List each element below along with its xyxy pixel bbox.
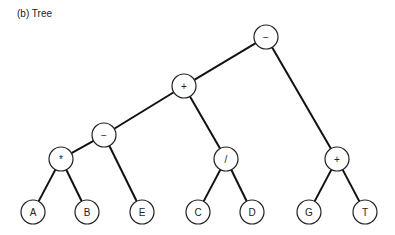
tree-node-B: B <box>75 200 99 224</box>
node-label: + <box>334 154 340 165</box>
node-label: − <box>263 32 269 43</box>
tree-node-E: E <box>130 200 154 224</box>
tree-edge <box>231 170 246 201</box>
tree-node-D: D <box>240 200 264 224</box>
node-label: D <box>248 207 255 218</box>
tree-edge <box>66 170 81 201</box>
tree-edge <box>315 170 332 202</box>
tree-node-div: / <box>214 147 238 171</box>
tree-edge <box>194 43 255 80</box>
node-label: T <box>362 207 368 218</box>
tree-node-T: T <box>353 200 377 224</box>
tree-node-C: C <box>186 200 210 224</box>
node-label: + <box>181 81 187 92</box>
tree-node-A: A <box>21 200 45 224</box>
tree-node-plus1: + <box>172 74 196 98</box>
node-label: A <box>30 207 37 218</box>
node-label: B <box>84 207 91 218</box>
node-label: G <box>305 207 313 218</box>
tree-edge <box>343 170 360 202</box>
tree-node-mul: * <box>49 147 73 171</box>
node-label: / <box>225 154 228 165</box>
node-label: C <box>194 207 201 218</box>
node-label: − <box>101 130 107 141</box>
tree-edge <box>71 141 93 153</box>
tree-node-root: − <box>254 25 278 49</box>
node-label: E <box>139 207 146 218</box>
tree-edge <box>39 170 56 202</box>
expression-tree: −+−*ABE/CD+GT <box>0 0 395 235</box>
tree-edges <box>39 43 360 201</box>
tree-edge <box>114 92 174 128</box>
tree-edge <box>272 47 331 148</box>
tree-node-plus2: + <box>325 147 349 171</box>
tree-node-minus2: − <box>92 123 116 147</box>
tree-edge <box>204 170 221 202</box>
tree-node-G: G <box>297 200 321 224</box>
tree-edge <box>109 146 136 201</box>
tree-nodes: −+−*ABE/CD+GT <box>21 25 377 224</box>
tree-edge <box>190 96 220 148</box>
node-label: * <box>59 154 63 165</box>
